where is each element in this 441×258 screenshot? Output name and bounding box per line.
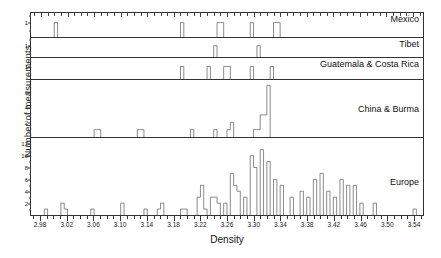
top-tick xyxy=(287,13,288,16)
top-tick xyxy=(94,13,95,17)
top-tick xyxy=(313,13,314,16)
x-tick xyxy=(154,216,155,219)
top-tick xyxy=(234,13,235,16)
x-tick xyxy=(100,216,101,219)
top-tick xyxy=(247,13,248,16)
top-tick xyxy=(307,13,308,17)
top-tick xyxy=(220,13,221,16)
top-tick xyxy=(360,13,361,17)
x-tick xyxy=(80,216,81,219)
x-tick xyxy=(134,216,135,219)
x-tick-label: 3.14 xyxy=(141,221,154,228)
top-tick xyxy=(347,13,348,16)
x-tick xyxy=(334,216,335,221)
y-tick-label: 12 xyxy=(21,141,31,147)
top-tick xyxy=(147,13,148,17)
panel-mexico: 1Mexico xyxy=(30,12,424,38)
top-tick xyxy=(74,13,75,16)
top-tick xyxy=(121,13,122,17)
x-tick xyxy=(401,216,402,219)
y-tick-label: 10 xyxy=(21,153,31,159)
top-tick xyxy=(114,13,115,16)
x-tick xyxy=(40,216,41,221)
x-tick xyxy=(314,216,315,219)
top-tick xyxy=(214,13,215,16)
panel-label: Mexico xyxy=(390,14,419,24)
x-tick xyxy=(53,216,54,219)
x-tick xyxy=(260,216,261,219)
panel-label: Tibet xyxy=(399,39,419,49)
top-tick xyxy=(127,13,128,16)
density-histogram-figure: Number of measurements 1Mexico1Tibet1Gua… xyxy=(0,0,441,258)
panel-stack: 1Mexico1Tibet1Guatemala & Costa Rica246C… xyxy=(30,12,424,216)
top-tick xyxy=(161,13,162,16)
x-tick-label: 3.22 xyxy=(194,221,207,228)
x-tick-label: 3.30 xyxy=(247,221,260,228)
x-tick xyxy=(247,216,248,219)
x-tick xyxy=(140,216,141,219)
x-tick xyxy=(280,216,281,221)
top-tick xyxy=(240,13,241,16)
top-tick xyxy=(54,13,55,16)
x-tick xyxy=(87,216,88,219)
x-tick xyxy=(207,216,208,219)
top-tick xyxy=(267,13,268,16)
top-tick xyxy=(227,13,228,17)
x-axis-title: Density xyxy=(30,234,424,245)
x-tick xyxy=(73,216,74,219)
x-tick-label: 3.54 xyxy=(408,221,421,228)
top-tick xyxy=(333,13,334,17)
top-tick xyxy=(260,13,261,16)
x-tick-label: 3.50 xyxy=(381,221,394,228)
top-tick xyxy=(274,13,275,16)
top-tick xyxy=(34,13,35,16)
x-tick-label: 3.06 xyxy=(87,221,100,228)
top-tick xyxy=(327,13,328,16)
top-tick xyxy=(340,13,341,16)
x-tick-label: 3.46 xyxy=(354,221,367,228)
x-tick xyxy=(227,216,228,221)
top-tick xyxy=(200,13,201,17)
top-tick xyxy=(61,13,62,16)
top-tick xyxy=(68,13,69,17)
x-tick xyxy=(220,216,221,219)
x-tick xyxy=(394,216,395,219)
x-tick-label: 3.02 xyxy=(60,221,73,228)
top-tick xyxy=(174,13,175,17)
x-tick xyxy=(93,216,94,221)
top-tick xyxy=(154,13,155,16)
top-tick xyxy=(41,13,42,17)
panel-europe: 24681012Europe xyxy=(30,138,424,216)
top-tick xyxy=(373,13,374,16)
panel-label: Guatemala & Costa Rica xyxy=(320,59,419,69)
panel-china-burma: 246China & Burma xyxy=(30,80,424,138)
x-tick xyxy=(274,216,275,219)
top-tick xyxy=(380,13,381,16)
top-tick xyxy=(167,13,168,16)
x-tick xyxy=(160,216,161,219)
x-tick xyxy=(361,216,362,221)
x-tick xyxy=(320,216,321,219)
histogram-outline xyxy=(31,138,423,215)
top-tick xyxy=(320,13,321,16)
x-tick xyxy=(294,216,295,219)
top-tick xyxy=(207,13,208,16)
x-tick xyxy=(367,216,368,219)
x-tick xyxy=(300,216,301,219)
histogram-outline xyxy=(31,38,423,57)
top-tick xyxy=(280,13,281,17)
x-tick xyxy=(120,216,121,221)
top-tick xyxy=(386,13,387,17)
x-tick xyxy=(374,216,375,219)
plot-area xyxy=(31,138,423,215)
x-tick xyxy=(421,216,422,219)
x-tick xyxy=(147,216,148,221)
x-tick xyxy=(381,216,382,219)
plot-area xyxy=(31,38,423,57)
top-tick xyxy=(420,13,421,16)
x-tick xyxy=(107,216,108,219)
x-tick xyxy=(60,216,61,219)
top-tick xyxy=(48,13,49,16)
x-tick-label: 3.18 xyxy=(167,221,180,228)
x-tick-label: 3.42 xyxy=(328,221,341,228)
